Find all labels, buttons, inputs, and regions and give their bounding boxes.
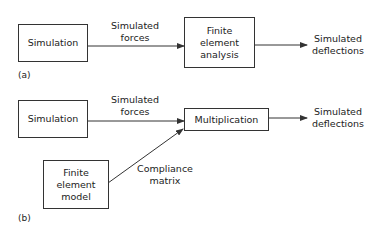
- node-b-finite-element-model: Finite element model: [43, 160, 109, 209]
- output-label-a-simulated-deflections: Simulated deflections: [309, 33, 367, 57]
- node-a-simulation: Simulation: [18, 24, 88, 62]
- node-a-finite-element-analysis: Finite element analysis: [184, 17, 255, 68]
- node-label: Simulation: [28, 37, 79, 49]
- edge-label-b-simulated-forces: Simulated forces: [105, 94, 165, 118]
- edge-label-b-compliance-matrix: Compliance matrix: [136, 163, 194, 187]
- node-label: Multiplication: [195, 114, 259, 126]
- node-b-simulation: Simulation: [18, 100, 88, 138]
- edge-label-a-simulated-forces: Simulated forces: [105, 20, 165, 44]
- node-label: Simulation: [28, 113, 79, 125]
- node-b-multiplication: Multiplication: [184, 108, 269, 131]
- output-label-b-simulated-deflections: Simulated deflections: [309, 106, 367, 130]
- panel-caption-b: (b): [18, 213, 31, 223]
- panel-caption-a: (a): [18, 70, 31, 80]
